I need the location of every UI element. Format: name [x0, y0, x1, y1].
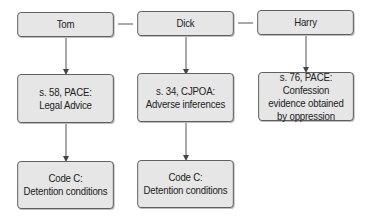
node-harry: Harry [257, 10, 354, 35]
node-s76-pace-confession: s. 76, PACE: Confession evidence obtaine… [258, 72, 354, 121]
node-s34-cjpoa-adverse-inferences: s. 34, CJPOA: Adverse inferences [137, 73, 234, 122]
node-label: Tom [57, 18, 75, 31]
node-dick: Dick [137, 11, 234, 36]
node-label: Code C: Detention conditions [144, 171, 228, 197]
node-label: s. 34, CJPOA: Adverse inferences [146, 85, 225, 111]
node-s58-pace-legal-advice: s. 58, PACE: Legal Advice [17, 74, 114, 123]
node-tom: Tom [17, 12, 114, 37]
node-label: s. 58, PACE: Legal Advice [39, 86, 92, 112]
node-label: Dick [176, 17, 194, 30]
node-label: s. 76, PACE: Confession evidence obtaine… [259, 71, 353, 123]
node-code-c-dick: Code C: Detention conditions [137, 160, 234, 208]
node-code-c-tom: Code C: Detention conditions [17, 161, 114, 209]
node-label: Harry [294, 16, 317, 29]
node-label: Code C: Detention conditions [24, 172, 108, 198]
